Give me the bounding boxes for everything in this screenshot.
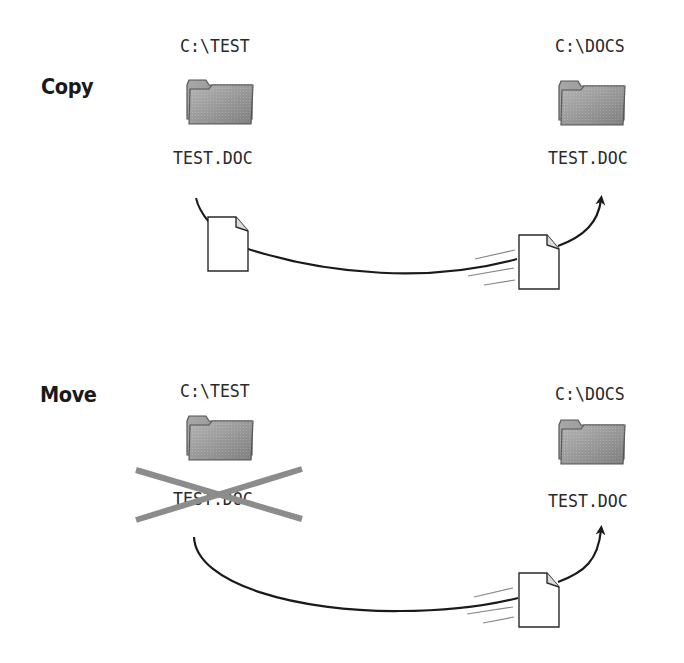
move-moving-document-icon: [519, 573, 559, 627]
copy-source-document-icon: [208, 217, 248, 271]
copy-source-folder-icon: [187, 80, 253, 124]
cross-out-mark: [136, 469, 302, 520]
move-destination-folder-icon: [559, 420, 625, 464]
move-source-folder-icon: [187, 416, 253, 460]
copy-moving-document-icon: [519, 235, 559, 289]
copy-destination-folder-icon: [559, 81, 625, 125]
